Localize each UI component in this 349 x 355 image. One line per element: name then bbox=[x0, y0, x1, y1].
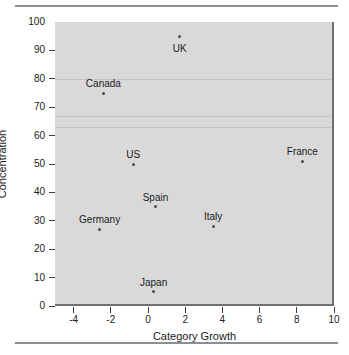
y-axis-tick bbox=[49, 78, 55, 79]
data-point-label: France bbox=[287, 146, 318, 157]
data-point[interactable] bbox=[152, 290, 155, 293]
data-point-label: Italy bbox=[204, 211, 222, 222]
y-axis-tick-label: 20 bbox=[34, 244, 45, 254]
y-axis-tick bbox=[49, 164, 55, 165]
y-axis-tick bbox=[49, 107, 55, 108]
y-axis-tick bbox=[49, 50, 55, 51]
y-axis-tick-label: 40 bbox=[34, 187, 45, 197]
plot-band bbox=[55, 127, 332, 128]
data-point-label: Germany bbox=[79, 214, 120, 225]
data-point[interactable] bbox=[154, 205, 157, 208]
x-axis-tick bbox=[185, 307, 186, 313]
plot-area: UKCanadaUSFranceSpainItalyGermanyJapan bbox=[55, 22, 334, 306]
data-point[interactable] bbox=[132, 163, 135, 166]
x-axis-tick bbox=[148, 307, 149, 313]
y-axis-tick-label: 0 bbox=[39, 301, 45, 311]
y-axis-tick bbox=[49, 249, 55, 250]
x-axis-tick-label: 4 bbox=[220, 315, 226, 325]
y-axis-tick-label: 30 bbox=[34, 216, 45, 226]
y-axis-tick bbox=[49, 220, 55, 221]
data-point[interactable] bbox=[178, 35, 181, 38]
x-axis-tick bbox=[222, 307, 223, 313]
y-axis-tick-label: 90 bbox=[34, 45, 45, 55]
y-axis-tick-label: 70 bbox=[34, 102, 45, 112]
x-axis-tick-label: -2 bbox=[106, 315, 115, 325]
x-axis-tick-label: -4 bbox=[69, 315, 78, 325]
top-horizontal-rule bbox=[15, 5, 338, 7]
y-axis-tick bbox=[49, 192, 55, 193]
x-axis-tick-label: 2 bbox=[182, 315, 188, 325]
x-axis-tick-label: 8 bbox=[294, 315, 300, 325]
data-point-label: Spain bbox=[143, 192, 169, 203]
y-axis-tick bbox=[49, 277, 55, 278]
data-point[interactable] bbox=[98, 228, 101, 231]
y-axis-tick-label: 50 bbox=[34, 159, 45, 169]
x-axis-tick bbox=[73, 307, 74, 313]
x-axis-tick bbox=[259, 307, 260, 313]
y-axis-tick bbox=[49, 135, 55, 136]
y-axis-label: Concentration bbox=[0, 130, 8, 199]
data-point-label: Japan bbox=[140, 277, 167, 288]
x-axis-tick-label: 10 bbox=[328, 315, 339, 325]
x-axis-tick-label: 0 bbox=[145, 315, 151, 325]
data-point[interactable] bbox=[102, 92, 105, 95]
plot-band bbox=[55, 116, 332, 117]
data-point[interactable] bbox=[301, 160, 304, 163]
scatter-plot-figure: UKCanadaUSFranceSpainItalyGermanyJapan C… bbox=[0, 0, 349, 355]
bottom-horizontal-rule bbox=[15, 342, 338, 344]
x-axis-label: Category Growth bbox=[55, 330, 334, 342]
x-axis-tick bbox=[334, 307, 335, 313]
y-axis-tick-label: 100 bbox=[28, 17, 45, 27]
y-axis-tick-label: 60 bbox=[34, 131, 45, 141]
data-point-label: US bbox=[126, 149, 140, 160]
data-point-label: UK bbox=[173, 43, 187, 54]
x-axis-tick bbox=[296, 307, 297, 313]
y-axis-tick-label: 10 bbox=[34, 273, 45, 283]
data-point-label: Canada bbox=[86, 78, 121, 89]
x-axis-tick bbox=[110, 307, 111, 313]
y-axis-tick-label: 80 bbox=[34, 74, 45, 84]
data-point[interactable] bbox=[212, 225, 215, 228]
y-axis-tick bbox=[49, 306, 55, 307]
x-axis-tick-label: 6 bbox=[257, 315, 263, 325]
